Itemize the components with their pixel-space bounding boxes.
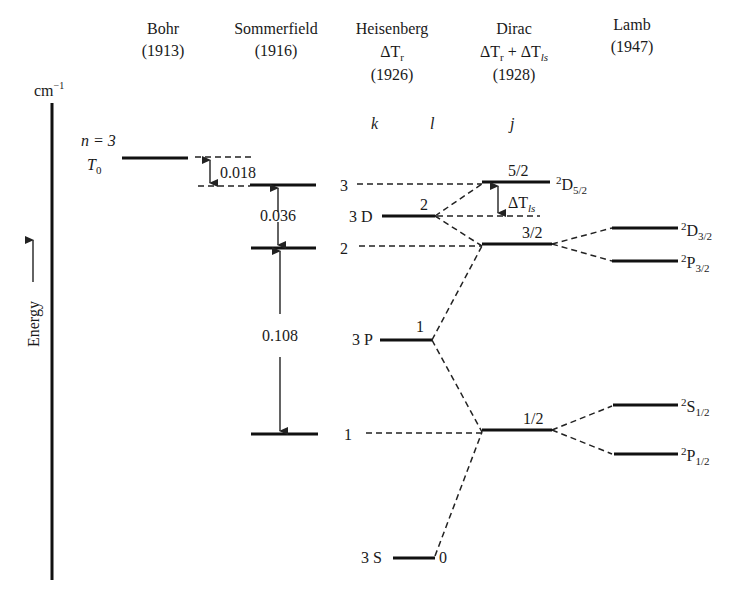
connector-3p-to-12 <box>432 340 482 432</box>
header-year: (1947) <box>611 38 654 56</box>
k-value-3: 3 <box>340 177 348 194</box>
connector-3s-to-12 <box>435 432 482 556</box>
l-label: l <box>430 115 435 132</box>
k-value-2: 2 <box>340 240 348 257</box>
l-value-2: 2 <box>420 196 428 213</box>
k-value-1: 1 <box>344 426 352 443</box>
column-header-dirac: Dirac ΔTr + ΔTls (1928) <box>480 20 548 84</box>
connector-12-to-2p12 <box>552 430 612 454</box>
svg-text:Energy: Energy <box>25 301 43 347</box>
gap-label-0108: 0.108 <box>262 327 298 344</box>
bohr-t0-label: T0 <box>87 156 102 176</box>
connector-3p-to-32 <box>432 246 482 340</box>
connector-3d-to-32 <box>435 216 482 246</box>
term-2d32: 2D3/2 <box>681 220 712 242</box>
gap-label-0018: 0.018 <box>220 164 256 181</box>
term-2d52: 2D5/2 <box>556 174 587 196</box>
header-year: (1916) <box>255 42 298 60</box>
header-name: Heisenberg <box>356 20 429 38</box>
connector-3d-to-52 <box>435 184 482 216</box>
header-year: (1926) <box>371 66 414 84</box>
connector-12-to-2s12 <box>552 406 612 430</box>
l-value-1: 1 <box>416 318 424 335</box>
j-value-32: 3/2 <box>522 224 542 241</box>
term-2p32: 2P3/2 <box>681 252 709 274</box>
term-2p12: 2P1/2 <box>681 445 709 467</box>
term-3d: 3 D <box>349 208 373 225</box>
header-year: (1928) <box>493 66 536 84</box>
j-value-52: 5/2 <box>508 162 528 179</box>
energy-level-diagram: Bohr (1913) Sommerfield (1916) Heisenber… <box>0 0 743 595</box>
connector-32-to-2p32 <box>552 244 612 261</box>
header-formula: ΔTr + ΔTls <box>480 43 548 63</box>
column-header-bohr: Bohr (1913) <box>142 20 185 60</box>
j-value-12: 1/2 <box>523 410 543 427</box>
term-3p: 3 P <box>352 331 373 348</box>
l-value-0: 0 <box>439 549 447 566</box>
column-header-sommerfield: Sommerfield (1916) <box>234 20 318 60</box>
j-label: j <box>508 115 515 133</box>
header-formula: ΔTr <box>380 43 404 63</box>
energy-label: Energy <box>25 240 43 347</box>
term-3s: 3 S <box>361 549 382 566</box>
header-name: Sommerfield <box>234 20 318 37</box>
bohr-n-label: n = 3 <box>81 132 116 149</box>
header-name: Bohr <box>147 20 180 37</box>
axis-unit: cm−1 <box>34 80 64 99</box>
gap-label-0036: 0.036 <box>260 207 296 224</box>
connector-32-to-2d32 <box>552 228 612 244</box>
header-year: (1913) <box>142 42 185 60</box>
delta-tls-label: ΔTls <box>508 194 535 214</box>
column-header-lamb: Lamb (1947) <box>611 16 654 56</box>
header-name: Dirac <box>496 20 532 37</box>
column-header-heisenberg: Heisenberg ΔTr (1926) <box>356 20 429 84</box>
header-name: Lamb <box>613 16 650 33</box>
k-label: k <box>371 115 379 132</box>
term-2s12: 2S1/2 <box>681 396 709 418</box>
